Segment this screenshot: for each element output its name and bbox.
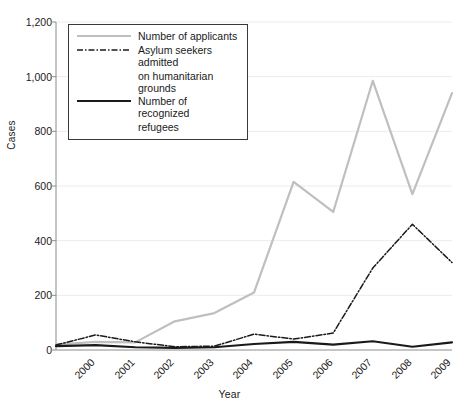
asylum-cases-line-chart: Cases 02004006008001,0001,200 2000200120… bbox=[0, 0, 459, 416]
legend-key-solid-black-icon bbox=[75, 95, 133, 107]
chart-legend: Number of applicants Asylum seekers admi… bbox=[68, 24, 248, 140]
legend-label-refugees-cont: refugees bbox=[138, 121, 241, 134]
y-tick-marks bbox=[51, 22, 56, 350]
legend-label-humanitarian: Asylum seekers admitted bbox=[138, 44, 241, 69]
x-axis-title: Year bbox=[0, 388, 459, 400]
legend-key-dashdot-black-icon bbox=[75, 44, 133, 56]
legend-item-applicants: Number of applicants bbox=[75, 30, 241, 43]
legend-label-humanitarian-cont: on humanitarian grounds bbox=[138, 70, 241, 95]
legend-item-humanitarian: Asylum seekers admitted bbox=[75, 44, 241, 69]
legend-key-solid-gray-icon bbox=[75, 30, 133, 42]
legend-label-applicants: Number of applicants bbox=[138, 30, 237, 43]
legend-item-refugees: Number of recognized bbox=[75, 95, 241, 120]
legend-label-refugees: Number of recognized bbox=[138, 95, 241, 120]
series-line bbox=[56, 224, 452, 346]
